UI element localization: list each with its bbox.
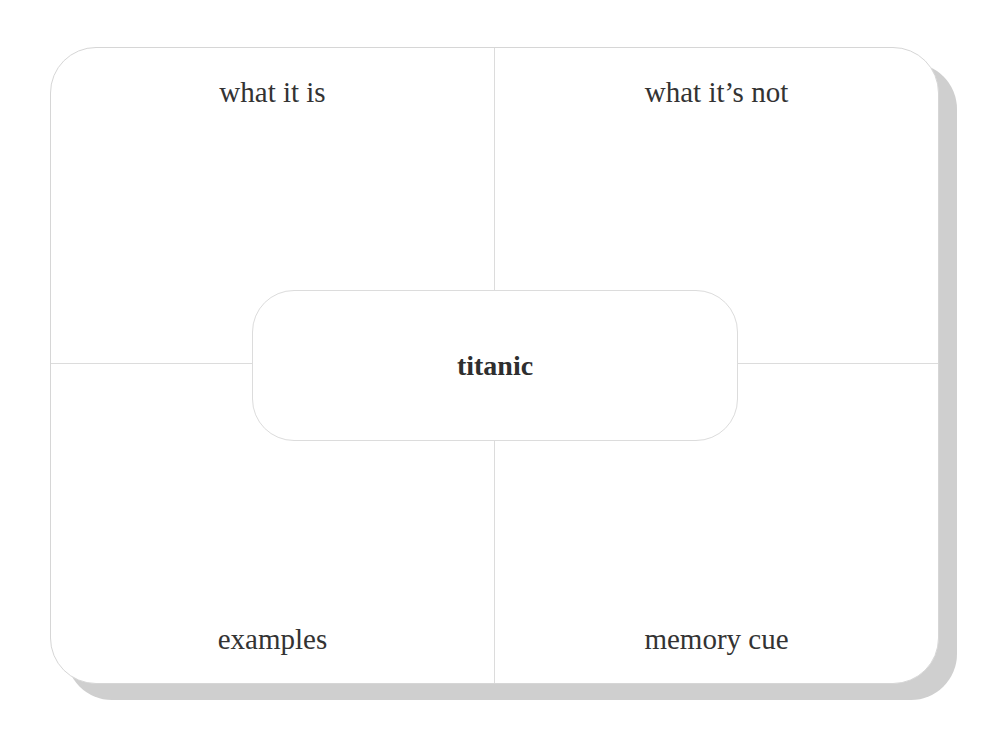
quadrant-label-what-its-not: what it’s not — [495, 78, 938, 107]
quadrant-label-examples: examples — [51, 625, 494, 654]
quadrant-label-memory-cue: memory cue — [495, 625, 938, 654]
center-term: titanic — [457, 350, 533, 382]
center-term-box: titanic — [252, 290, 738, 441]
frayer-model-card: what it is what it’s not examples memory… — [50, 47, 939, 684]
quadrant-label-what-it-is: what it is — [51, 78, 494, 107]
